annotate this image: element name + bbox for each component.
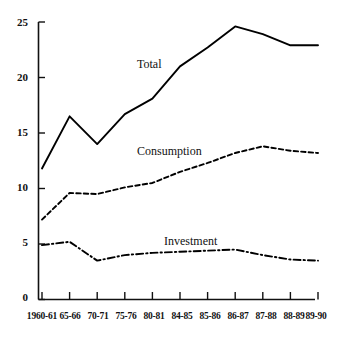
x-axis-ticks: [42, 292, 318, 300]
y-axis-ticks: [39, 22, 46, 300]
chart-plot-area: [0, 0, 337, 340]
y-tick-label-10: 10: [2, 182, 28, 193]
y-tick-label-20: 20: [2, 72, 28, 83]
x-tick-label-89-90: 89-90: [294, 312, 337, 322]
series-annotation-total: Total: [137, 58, 162, 70]
series-annotation-consumption: Consumption: [137, 145, 202, 157]
y-tick-label-15: 15: [2, 127, 28, 138]
series-annotation-investment: Investment: [164, 235, 217, 247]
y-tick-label-25: 25: [2, 17, 28, 28]
line-chart: 25 20 15 10 5 0 1960-61 65-66 70-71 75-7…: [0, 0, 337, 340]
y-tick-label-0: 0: [2, 292, 28, 303]
y-tick-label-5: 5: [2, 237, 28, 248]
